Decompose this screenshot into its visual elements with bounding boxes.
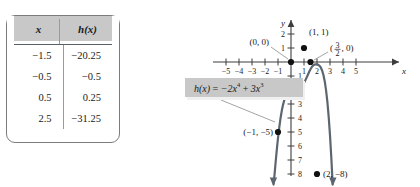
- values-table-grid: x h(x) −1.5 −20.25 −0.5 −0.5 0: [7, 16, 119, 129]
- equation-lhs: h(x): [194, 82, 210, 93]
- row-pad-right: [112, 108, 119, 129]
- header-pad-left: [7, 16, 14, 41]
- x-tick-label: 4: [341, 67, 345, 76]
- y-tick-label: 5: [298, 128, 302, 137]
- header-cell-hx: h(x): [63, 16, 112, 41]
- x-intercept-close-paren: , 0): [342, 43, 354, 53]
- point-x-intercept: [307, 59, 313, 65]
- y-tick-label: 3: [298, 100, 302, 109]
- y-tick-label: 2: [281, 30, 285, 39]
- point-left: [275, 129, 281, 135]
- y-tick-label: 1: [281, 44, 285, 53]
- x-tick-label: −1: [274, 67, 283, 76]
- cell-hx: −0.5: [63, 66, 112, 87]
- equation-term1-exponent: 4: [237, 81, 240, 88]
- equation-leader-line: [221, 100, 275, 122]
- table-row: 2.5 −31.25: [7, 108, 119, 129]
- function-graph: −5 −4 −3 −2 −1 1 2 3 4 5 x 1: [185, 0, 420, 187]
- x-tick-label: 3: [328, 67, 332, 76]
- table-row: 0.5 0.25: [7, 87, 119, 108]
- x-axis-arrow: [392, 59, 399, 66]
- label-right-point: (2, −8): [323, 169, 348, 179]
- leader-origin: [271, 47, 288, 59]
- header-pad-right: [112, 16, 119, 41]
- curve-arrow-left: [270, 178, 277, 187]
- row-pad-left: [7, 108, 14, 129]
- table-row: −0.5 −0.5: [7, 66, 119, 87]
- row-pad-left: [7, 66, 14, 87]
- point-origin: [288, 59, 294, 65]
- cell-hx: 0.25: [63, 87, 112, 108]
- label-left-point: (−1, −5): [243, 127, 273, 137]
- y-tick-label: 4: [298, 114, 302, 123]
- equation-term2: 3x: [251, 82, 260, 93]
- cell-x: 2.5: [14, 108, 63, 129]
- y-tick-label: 7: [298, 156, 302, 165]
- x-axis-label: x: [401, 66, 406, 76]
- x-tick-label: −5: [222, 67, 231, 76]
- x-tick-label: −2: [261, 67, 270, 76]
- equation-term1: −2x: [221, 82, 237, 93]
- y-axis-arrow: [288, 20, 295, 27]
- x-intercept-denominator: 2: [336, 49, 340, 58]
- label-leader-lines: [271, 47, 328, 60]
- cell-hx: −20.25: [63, 45, 112, 67]
- row-pad-right: [112, 66, 119, 87]
- leader-x-intercept: [314, 52, 328, 60]
- y-axis: 1 2 1 2 3 4 5 6 7 8 y: [280, 18, 302, 179]
- y-tick-label: 6: [298, 142, 302, 151]
- point-maximum: [301, 45, 307, 51]
- x-tick-label: −3: [248, 67, 257, 76]
- table-row: −1.5 −20.25: [7, 45, 119, 67]
- cell-x: −1.5: [14, 45, 63, 67]
- y-tick-label: 8: [298, 170, 302, 179]
- x-intercept-open-paren: (: [330, 43, 333, 53]
- header-cell-x: x: [14, 16, 63, 41]
- row-pad-left: [7, 87, 14, 108]
- header-column-separator: [59, 19, 60, 44]
- x-tick-label: −4: [235, 67, 244, 76]
- row-pad-left: [7, 45, 14, 67]
- x-tick-label: 2: [315, 67, 319, 76]
- label-origin: (0, 0): [250, 37, 270, 47]
- cell-x: 0.5: [14, 87, 63, 108]
- table-header-row: x h(x): [7, 16, 119, 41]
- y-axis-label: y: [280, 18, 285, 28]
- equation-text: h(x) = −2x4 + 3x3: [194, 82, 264, 93]
- x-tick-label: 1: [302, 67, 306, 76]
- x-tick-label: 5: [354, 67, 358, 76]
- row-pad-right: [112, 45, 119, 67]
- equation-term2-exponent: 3: [260, 81, 263, 88]
- cell-x: −0.5: [14, 66, 63, 87]
- equation-plus: +: [243, 82, 249, 93]
- values-table: x h(x) −1.5 −20.25 −0.5 −0.5 0: [6, 15, 120, 143]
- equation-equals: =: [213, 82, 219, 93]
- label-maximum: (1, 1): [309, 27, 329, 37]
- point-right: [314, 171, 320, 177]
- label-x-intercept: ( 3 2 , 0): [330, 41, 354, 58]
- equation-callout: h(x) = −2x4 + 3x3: [185, 78, 303, 97]
- cell-hx: −31.25: [63, 108, 112, 129]
- row-pad-right: [112, 87, 119, 108]
